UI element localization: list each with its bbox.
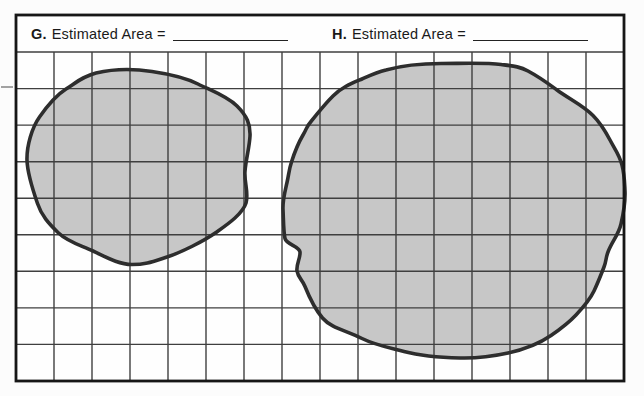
panel-letter-g: G. xyxy=(31,26,47,42)
worksheet-figure xyxy=(0,0,644,396)
header-g: G. Estimated Area = xyxy=(31,15,288,52)
header-caption-h: Estimated Area = xyxy=(352,26,466,42)
header-caption-g: Estimated Area = xyxy=(52,26,166,42)
answer-blank-h xyxy=(473,27,588,41)
header-h: H. Estimated Area = xyxy=(332,15,588,52)
panel-letter-h: H. xyxy=(332,26,347,42)
blob-h-fill xyxy=(283,63,625,358)
header-band: G. Estimated Area = H. Estimated Area = xyxy=(16,15,624,52)
answer-blank-g xyxy=(173,27,288,41)
